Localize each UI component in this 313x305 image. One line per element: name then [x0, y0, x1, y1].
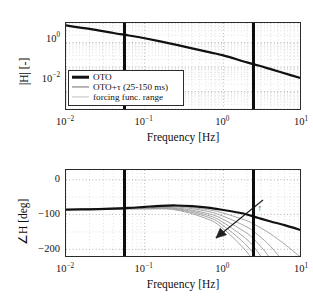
- legend-label-oto: OTO: [93, 72, 112, 82]
- bode-figure: OTO OTO+τ (25-150 ms) forcing func. rang…: [0, 0, 313, 305]
- legend-line-icon-oto: [71, 73, 90, 82]
- forcing-range-marker-low-phase: [123, 170, 126, 256]
- forcing-range-marker-high: [252, 23, 255, 109]
- magnitude-xtick-0: 10−2: [56, 117, 74, 128]
- phase-ytick-0: 0: [24, 174, 60, 185]
- phase-plot-area: [65, 169, 301, 257]
- legend: OTO OTO+τ (25-150 ms) forcing func. rang…: [68, 70, 184, 106]
- magnitude-xtick-2: 100: [215, 117, 229, 128]
- phase-xaxis-title: Frequency [Hz]: [147, 278, 219, 290]
- phase-ytick-2: −200: [18, 244, 60, 255]
- phase-canvas: [66, 170, 301, 257]
- phase-xtick-0: 10−2: [56, 264, 74, 275]
- phase-xtick-3: 101: [294, 264, 308, 275]
- legend-entry-forcing-range: forcing func. range: [71, 92, 180, 102]
- phase-yaxis-title: ∠H [deg]: [16, 199, 30, 245]
- legend-entry-oto-tau: OTO+τ (25-150 ms): [71, 82, 180, 92]
- magnitude-xaxis-title: Frequency [Hz]: [147, 131, 219, 143]
- magnitude-panel: OTO OTO+τ (25-150 ms) forcing func. rang…: [0, 0, 313, 152]
- legend-line-icon-forcing-range: [71, 93, 90, 102]
- legend-entry-oto: OTO: [71, 72, 180, 82]
- legend-label-oto-tau: OTO+τ (25-150 ms): [93, 82, 168, 92]
- tau-increase-annotation: τ ↑: [252, 203, 262, 213]
- magnitude-xtick-3: 101: [294, 117, 308, 128]
- legend-line-icon-oto-tau: [71, 83, 90, 92]
- phase-xtick-1: 10−1: [135, 264, 153, 275]
- forcing-range-marker-high-phase: [252, 170, 255, 256]
- magnitude-xtick-1: 10−1: [135, 117, 153, 128]
- magnitude-yaxis-title: |H| [-]: [18, 58, 30, 85]
- phase-xtick-2: 100: [215, 264, 229, 275]
- phase-panel: τ ↑ 0 −100 −200 10−2 10−1 100 101 Freque…: [0, 152, 313, 305]
- legend-label-forcing-range: forcing func. range: [93, 92, 163, 102]
- magnitude-ytick-0: 100: [24, 34, 60, 45]
